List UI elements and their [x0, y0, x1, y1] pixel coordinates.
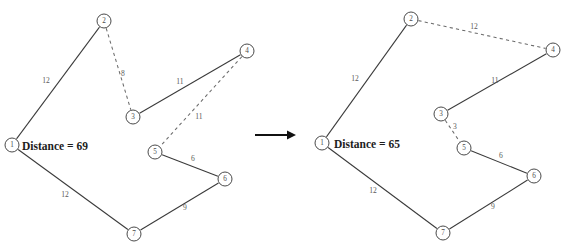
node-label-4: 4 [551, 46, 555, 54]
edge-weight-3-5: 3 [453, 122, 457, 131]
edge-weight-5-6: 6 [191, 154, 195, 163]
node-label-5: 5 [153, 148, 157, 156]
edge-3-4 [140, 55, 241, 113]
distance-label-after: Distance = 65 [334, 138, 400, 150]
node-label-4: 4 [245, 47, 249, 55]
edge-weight-1-2: 12 [42, 76, 50, 85]
edge-weight-4-3: 11 [491, 76, 499, 85]
edge-1-2 [17, 27, 100, 139]
edge-weight-2-3: 8 [121, 69, 125, 78]
edge-weight-7-1: 12 [369, 186, 377, 195]
edge-1-2 [326, 25, 406, 137]
diagram-canvas: 128111169121234567Distance = 69121211369… [0, 0, 567, 244]
edge-weight-1-2: 12 [351, 74, 359, 83]
node-label-6: 6 [532, 172, 536, 180]
edge-7-1 [328, 148, 437, 229]
transition-arrow-group [255, 130, 296, 139]
node-label-5: 5 [462, 144, 466, 152]
graph-panel-before: 128111169121234567Distance = 69 [5, 14, 254, 241]
node-label-1: 1 [10, 141, 14, 149]
edge-weight-6-7: 9 [183, 203, 187, 212]
edge-2-4 [418, 21, 545, 49]
distance-label-before: Distance = 69 [22, 140, 88, 152]
edge-4-5 [160, 57, 242, 147]
node-label-1: 1 [320, 139, 324, 147]
edge-6-7 [141, 183, 219, 230]
edge-2-3 [106, 28, 131, 109]
edge-weight-6-7: 9 [491, 202, 495, 211]
edge-weight-7-1: 12 [61, 190, 69, 199]
edge-weight-5-6: 6 [499, 151, 503, 160]
node-label-7: 7 [132, 230, 136, 238]
edge-5-6 [162, 155, 218, 177]
edge-weight-4-5: 11 [195, 112, 203, 121]
node-label-3: 3 [131, 113, 135, 121]
node-label-7: 7 [441, 229, 445, 237]
node-label-3: 3 [439, 110, 443, 118]
edge-weight-3-4: 11 [176, 77, 184, 86]
edge-6-7 [449, 180, 527, 229]
right-arrow-head [287, 130, 296, 139]
edge-weight-2-4: 12 [470, 22, 478, 31]
node-label-6: 6 [223, 175, 227, 183]
node-label-2: 2 [409, 15, 413, 23]
node-label-2: 2 [102, 17, 106, 25]
graph-panel-after: 121211369121234567Distance = 65 [315, 12, 560, 240]
edge-7-1 [18, 149, 128, 229]
tour-improvement-figure: 128111169121234567Distance = 69121211369… [0, 0, 567, 244]
